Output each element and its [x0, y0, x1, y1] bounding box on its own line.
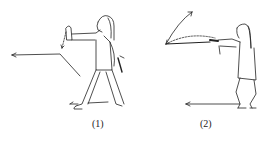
figure-2-caption: (2): [200, 118, 212, 129]
figures-drawing: [0, 0, 263, 145]
illustration-canvas: (1) (2): [0, 0, 263, 145]
figure-1-caption: (1): [92, 118, 104, 129]
figure-2-drawing: [166, 12, 256, 108]
figure-1-drawing: [12, 16, 124, 109]
